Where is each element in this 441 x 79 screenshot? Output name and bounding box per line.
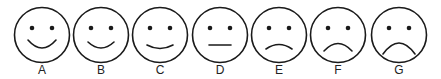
eye-icon: [208, 26, 213, 31]
face-outline: [15, 8, 70, 63]
mouth-big-smile: [28, 40, 56, 48]
eye-icon: [30, 26, 35, 31]
face-b-icon: [74, 8, 129, 63]
eye-icon: [109, 26, 114, 31]
face-label-b: B: [71, 63, 131, 77]
eye-icon: [89, 26, 94, 31]
face-a-icon: [15, 8, 70, 63]
face-c-icon: [133, 8, 188, 63]
mouth-big-frown: [383, 43, 415, 54]
face-label-d: D: [190, 63, 250, 77]
eye-icon: [50, 26, 55, 31]
eye-icon: [407, 26, 412, 31]
face-label-f: F: [308, 63, 368, 77]
face-f-icon: [311, 8, 366, 63]
face-d-icon: [193, 8, 248, 63]
eye-icon: [326, 26, 331, 31]
face-outline: [74, 8, 129, 63]
face-g-icon: [372, 8, 427, 63]
face-label-c: C: [130, 63, 190, 77]
face-outline: [372, 8, 427, 63]
eye-icon: [228, 26, 233, 31]
face-rating-scale: ABCDEFG: [0, 0, 441, 79]
face-label-e: E: [249, 63, 309, 77]
mouth-smile: [88, 42, 114, 48]
face-outline: [311, 8, 366, 63]
face-outline: [252, 8, 307, 63]
face-label-g: G: [369, 63, 429, 77]
mouth-slight-smile: [147, 45, 173, 49]
face-e-icon: [252, 8, 307, 63]
face-outline: [133, 8, 188, 63]
eye-icon: [287, 26, 292, 31]
eye-icon: [346, 26, 351, 31]
face-outline: [193, 8, 248, 63]
face-label-a: A: [12, 63, 72, 77]
eye-icon: [148, 26, 153, 31]
mouth-slight-frown: [266, 45, 292, 50]
eye-icon: [168, 26, 173, 31]
mouth-frown: [324, 44, 352, 52]
eye-icon: [267, 26, 272, 31]
eye-icon: [387, 26, 392, 31]
